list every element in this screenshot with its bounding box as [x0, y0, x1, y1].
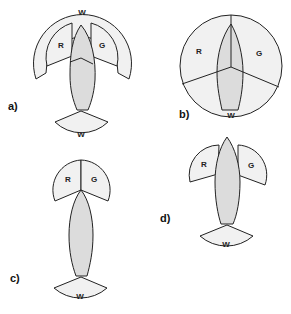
hull — [69, 190, 93, 276]
label-w-masthead: W — [78, 8, 86, 17]
panel-label-d: d) — [160, 212, 171, 224]
panel-a: W R G W a) — [8, 8, 131, 139]
label-w-stern: W — [76, 292, 84, 301]
label-w-stern: W — [222, 240, 230, 249]
label-g: G — [256, 49, 262, 58]
panel-label-c: c) — [10, 272, 20, 284]
label-r: R — [201, 160, 207, 169]
label-r: R — [196, 47, 202, 56]
panel-c: R G W c) — [10, 160, 110, 301]
label-w-stern: W — [77, 130, 85, 139]
panel-d: R G W d) — [160, 137, 267, 249]
label-r: R — [65, 175, 71, 184]
label-r: R — [58, 41, 64, 50]
panel-label-b: b) — [179, 108, 190, 120]
label-g: G — [91, 175, 97, 184]
navigation-lights-diagram: W R G W a) R G W b) R G W c) R G W d) — [0, 0, 291, 314]
label-g: G — [248, 161, 254, 170]
panel-label-a: a) — [8, 100, 18, 112]
label-w-stern: W — [227, 111, 235, 120]
label-g: G — [99, 41, 105, 50]
panel-b: R G W b) — [179, 15, 282, 120]
